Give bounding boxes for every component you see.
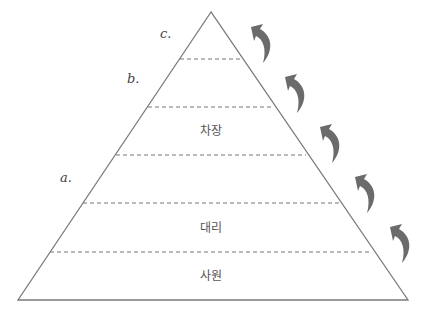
marker-c: c. [160,26,171,41]
level-label-chajang: 차장 [200,124,222,138]
level-label-sawon: 사원 [200,269,222,283]
curved-arrow-icon [285,74,304,113]
level-label-daeri: 대리 [200,221,222,235]
curved-arrow-icon [390,224,409,263]
curved-arrow-icon [320,124,339,163]
pyramid-diagram: 차장 대리 사원 c. b. a. [0,0,427,319]
pyramid-outline [18,12,408,300]
promotion-arrows [251,24,409,263]
marker-a: a. [60,170,72,185]
curved-arrow-icon [355,174,374,213]
curved-arrow-icon [251,24,270,63]
marker-b: b. [127,71,139,86]
